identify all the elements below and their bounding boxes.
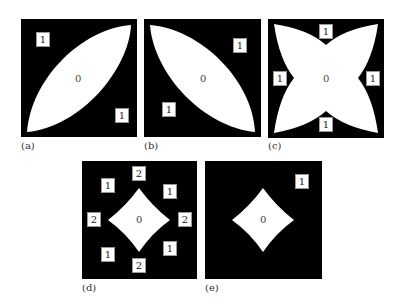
region-label: 1 — [319, 117, 333, 132]
center-label: 0 — [200, 73, 206, 84]
panel-d: 2 1 1 2 0 2 1 1 2 — [82, 161, 197, 279]
region-label: 1 — [101, 247, 115, 262]
region-label: 1 — [101, 178, 115, 193]
region-label: 1 — [295, 174, 309, 189]
region-label: 1 — [115, 108, 129, 123]
caption-d: (d) — [82, 282, 96, 293]
panel-a: 1 0 1 — [21, 19, 137, 137]
caption-b: (b) — [144, 140, 158, 151]
region-label: 2 — [178, 212, 192, 227]
region-label: 1 — [162, 102, 176, 117]
caption-c: (c) — [268, 140, 281, 151]
region-label: 1 — [163, 241, 177, 256]
center-label: 0 — [75, 73, 81, 84]
panel-e: 1 0 — [205, 161, 322, 279]
panel-c: 1 1 0 1 1 — [268, 19, 384, 138]
region-label: 2 — [132, 258, 146, 273]
center-label: 0 — [136, 214, 142, 225]
region-label: 1 — [233, 38, 247, 53]
region-label: 1 — [366, 71, 380, 86]
caption-e: (e) — [205, 282, 219, 293]
region-label: 1 — [36, 32, 50, 47]
center-label: 0 — [260, 214, 266, 225]
region-label: 1 — [163, 184, 177, 199]
panel-b: 1 0 1 — [144, 19, 261, 137]
caption-a: (a) — [21, 140, 35, 151]
region-label: 1 — [273, 71, 287, 86]
region-label: 2 — [132, 166, 146, 181]
center-label: 0 — [323, 73, 329, 84]
region-label: 1 — [319, 24, 333, 39]
region-label: 2 — [87, 212, 101, 227]
